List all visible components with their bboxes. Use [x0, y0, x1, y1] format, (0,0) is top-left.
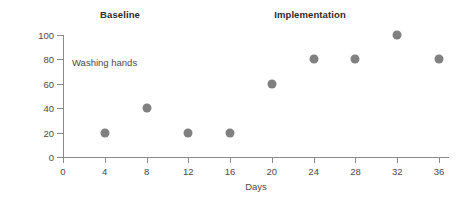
x-axis-tick [272, 157, 273, 163]
data-point [142, 104, 151, 113]
x-axis-tick [188, 157, 189, 163]
y-axis-tick-label: 100 [38, 30, 54, 41]
x-axis-tick [355, 157, 356, 163]
y-axis-tick [57, 108, 63, 109]
x-axis-tick-label: 12 [183, 166, 194, 177]
y-axis-tick-label: 80 [43, 54, 54, 65]
x-axis-tick-label: 0 [60, 166, 65, 177]
y-axis-tick [57, 84, 63, 85]
data-point [351, 55, 360, 64]
phase-header-baseline: Baseline [100, 9, 140, 20]
annotation-washing-hands: Washing hands [72, 57, 137, 68]
scatter-chart: Baseline Implementation Percentage of ti… [0, 0, 461, 202]
y-axis-line [63, 35, 64, 158]
x-axis-tick [397, 157, 398, 163]
x-axis-tick [230, 157, 231, 163]
y-axis-tick-label: 0 [49, 152, 54, 163]
x-axis-tick-label: 8 [144, 166, 149, 177]
x-axis-tick-label: 24 [308, 166, 319, 177]
data-point [226, 128, 235, 137]
x-axis-tick-label: 16 [225, 166, 236, 177]
y-axis-tick [57, 59, 63, 60]
data-point [393, 31, 402, 40]
x-axis-tick-label: 36 [434, 166, 445, 177]
x-axis-tick [314, 157, 315, 163]
data-point [267, 79, 276, 88]
x-axis-tick [147, 157, 148, 163]
x-axis-line [63, 157, 449, 158]
data-point [100, 128, 109, 137]
data-point [309, 55, 318, 64]
x-axis-tick-label: 20 [267, 166, 278, 177]
y-axis-tick-label: 20 [43, 127, 54, 138]
x-axis-tick [63, 157, 64, 163]
x-axis-tick [439, 157, 440, 163]
x-axis-tick-label: 28 [350, 166, 361, 177]
x-axis-title: Days [245, 181, 267, 192]
data-point [435, 55, 444, 64]
data-point [184, 128, 193, 137]
phase-header-implementation: Implementation [274, 9, 346, 20]
y-axis-tick-label: 40 [43, 103, 54, 114]
x-axis-tick-label: 32 [392, 166, 403, 177]
x-axis-tick-label: 4 [102, 166, 107, 177]
y-axis-tick [57, 133, 63, 134]
y-axis-tick-label: 60 [43, 78, 54, 89]
x-axis-tick [105, 157, 106, 163]
y-axis-tick [57, 35, 63, 36]
